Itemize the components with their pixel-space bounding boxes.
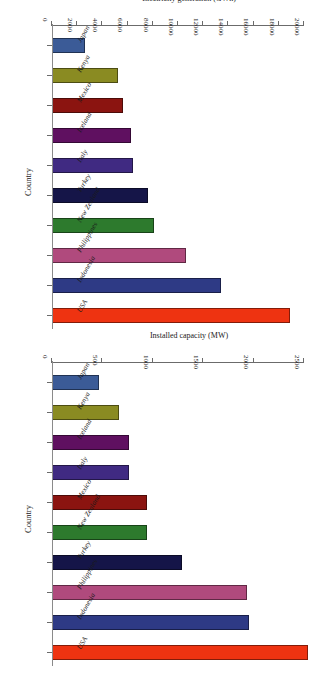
value-tick-label: 20000 <box>293 18 301 36</box>
value-tick-label: 500 <box>91 355 99 366</box>
generation-value-axis <box>52 25 304 26</box>
capacity-value-axis <box>52 362 304 363</box>
value-tick-label: 2000 <box>66 18 74 32</box>
category-tick <box>47 412 52 413</box>
bar-row <box>52 275 304 297</box>
value-tick <box>253 21 254 26</box>
category-tick <box>47 592 52 593</box>
bar-row <box>52 372 304 394</box>
category-tick <box>47 622 52 623</box>
bar-italy <box>52 465 129 480</box>
bar-row <box>52 155 304 177</box>
bar-iceland <box>52 435 129 450</box>
category-tick <box>47 45 52 46</box>
category-tick <box>47 532 52 533</box>
figure-page: Installed capacity (MW) Country USAIndon… <box>0 0 334 674</box>
bar-row <box>52 35 304 57</box>
value-tick <box>278 21 279 26</box>
category-tick <box>47 195 52 196</box>
bar-new-zealand <box>52 525 147 540</box>
bar-kenya <box>52 68 118 83</box>
value-tick <box>101 358 102 363</box>
value-tick-label: 1500 <box>192 355 200 369</box>
category-tick <box>47 652 52 653</box>
bar-row <box>52 642 304 664</box>
value-tick-label: 2500 <box>293 355 301 369</box>
bar-usa <box>52 308 290 323</box>
bar-row <box>52 612 304 634</box>
category-tick <box>47 75 52 76</box>
value-tick <box>101 21 102 26</box>
value-tick-label: 2000 <box>242 355 250 369</box>
category-tick <box>47 285 52 286</box>
value-tick-label: 8000 <box>142 18 150 32</box>
value-tick-label: 10000 <box>167 18 175 36</box>
category-tick <box>47 502 52 503</box>
value-tick <box>127 21 128 26</box>
bar-row <box>52 522 304 544</box>
bar-iceland <box>52 128 131 143</box>
capacity-y-axis-title: Country <box>23 505 33 533</box>
value-tick <box>303 21 304 26</box>
capacity-category-axis <box>52 361 53 666</box>
category-tick <box>47 135 52 136</box>
bar-turkey <box>52 555 182 570</box>
bar-row <box>52 125 304 147</box>
value-tick <box>76 21 77 26</box>
value-tick-label: 0 <box>41 355 49 359</box>
category-tick <box>47 562 52 563</box>
value-tick <box>51 21 52 26</box>
value-tick <box>177 21 178 26</box>
value-tick-label: 18000 <box>268 18 276 36</box>
value-tick <box>152 358 153 363</box>
bar-usa <box>52 645 308 660</box>
category-tick <box>47 382 52 383</box>
bar-new-zealand <box>52 218 154 233</box>
value-tick <box>253 358 254 363</box>
category-tick <box>47 165 52 166</box>
value-tick-label: 12000 <box>192 18 200 36</box>
value-tick-label: 1000 <box>142 355 150 369</box>
value-tick <box>202 21 203 26</box>
value-tick-label: 14000 <box>217 18 225 36</box>
value-tick-label: 6000 <box>116 18 124 32</box>
value-tick-label: 0 <box>41 18 49 22</box>
generation-category-axis <box>52 24 53 329</box>
bar-row <box>52 305 304 327</box>
value-tick <box>303 358 304 363</box>
category-tick <box>47 442 52 443</box>
category-tick <box>47 255 52 256</box>
value-tick <box>152 21 153 26</box>
value-tick <box>51 358 52 363</box>
value-tick-label: 16000 <box>242 18 250 36</box>
category-tick <box>47 315 52 316</box>
chart-installed-capacity: Installed capacity (MW) Country USAIndon… <box>0 337 334 674</box>
bar-philippines <box>52 248 186 263</box>
generation-y-axis-title: Country <box>23 168 33 196</box>
bar-row <box>52 432 304 454</box>
chart-electricity-generation: Electricity generation (GWh) Country USA… <box>0 0 334 337</box>
bar-italy <box>52 158 133 173</box>
category-tick <box>47 472 52 473</box>
value-tick <box>227 21 228 26</box>
rotated-figure: Installed capacity (MW) Country USAIndon… <box>0 0 334 674</box>
value-tick-label: 4000 <box>91 18 99 32</box>
category-tick <box>47 225 52 226</box>
value-tick <box>202 358 203 363</box>
generation-x-axis-title: Electricity generation (GWh) <box>104 0 274 3</box>
category-tick <box>47 105 52 106</box>
